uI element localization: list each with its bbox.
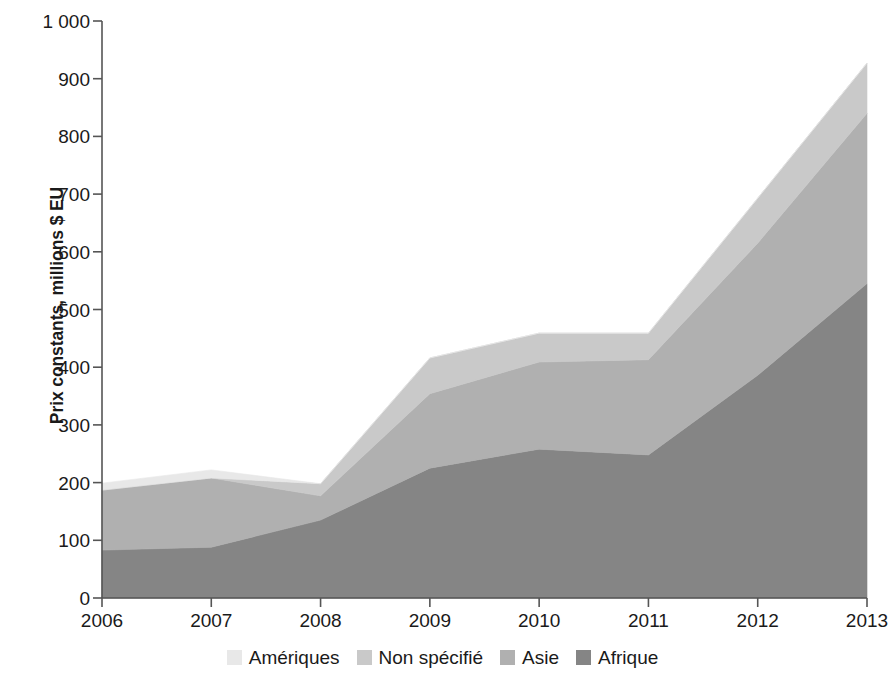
legend-swatch-icon [357, 650, 372, 665]
legend-entry: Afrique [576, 648, 658, 667]
legend-swatch-icon [576, 650, 591, 665]
legend-label: Non spécifié [379, 648, 484, 667]
x-tick-label: 2007 [190, 610, 232, 632]
area-series-group [102, 63, 867, 598]
legend-label: Afrique [598, 648, 658, 667]
legend-swatch-icon [500, 650, 515, 665]
legend-entry: Asie [500, 648, 559, 667]
legend-label: Amériques [249, 648, 340, 667]
x-tick-label: 2009 [409, 610, 451, 632]
legend-entry: Amériques [227, 648, 340, 667]
x-tick-label: 2013 [846, 610, 888, 632]
chart-legend: AmériquesNon spécifiéAsieAfrique [0, 648, 885, 667]
x-tick-label: 2006 [81, 610, 123, 632]
legend-swatch-icon [227, 650, 242, 665]
legend-label: Asie [522, 648, 559, 667]
x-tick-label: 2011 [628, 610, 669, 632]
x-tick-label: 2010 [518, 610, 560, 632]
legend-entry: Non spécifié [357, 648, 484, 667]
x-tick-label: 2008 [299, 610, 341, 632]
x-tick-label: 2012 [737, 610, 779, 632]
